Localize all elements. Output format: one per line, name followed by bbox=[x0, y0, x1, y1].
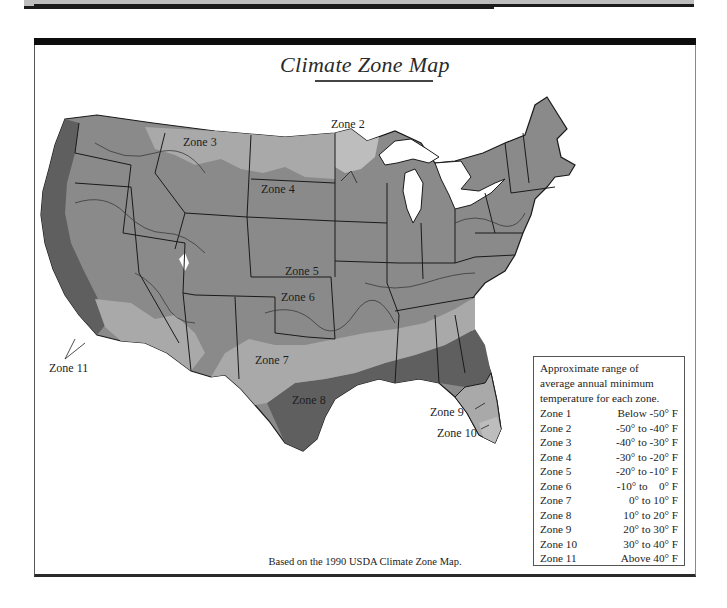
zone-label-11: Zone 11 bbox=[49, 361, 88, 376]
legend-zone: Zone 6 bbox=[540, 479, 571, 494]
zone-label-2: Zone 2 bbox=[331, 117, 365, 132]
map-frame: Climate Zone Map bbox=[34, 38, 696, 577]
legend-row: Zone 4-30° to -20° F bbox=[540, 450, 678, 465]
legend-row: Zone 920° to 30° F bbox=[540, 522, 678, 537]
frame-top-bar bbox=[34, 38, 696, 45]
zone-legend: Approximate range of average annual mini… bbox=[533, 356, 685, 566]
legend-row: Zone 3-40° to -30° F bbox=[540, 435, 678, 450]
zone-label-8: Zone 8 bbox=[292, 393, 326, 408]
legend-header-line-2: average annual minimum bbox=[540, 376, 678, 391]
legend-row: Zone 6-10° to 0° F bbox=[540, 479, 678, 494]
legend-row: Zone 2-50° to -40° F bbox=[540, 421, 678, 436]
zone-label-7: Zone 7 bbox=[255, 353, 289, 368]
legend-zone: Zone 9 bbox=[540, 522, 571, 537]
legend-range: 30° to 40° F bbox=[623, 537, 678, 552]
zone-label-3: Zone 3 bbox=[183, 135, 217, 150]
legend-zone: Zone 5 bbox=[540, 464, 571, 479]
title-underline bbox=[315, 80, 433, 82]
legend-row: Zone 1Below -50° F bbox=[540, 406, 678, 421]
legend-range: -10° to 0° F bbox=[617, 479, 678, 494]
legend-zone: Zone 8 bbox=[540, 508, 571, 523]
page-title: Climate Zone Map bbox=[35, 52, 695, 78]
top-strip bbox=[34, 0, 694, 7]
legend-row: Zone 5-20° to -10° F bbox=[540, 464, 678, 479]
legend-row: Zone 70° to 10° F bbox=[540, 493, 678, 508]
legend-range: -40° to -30° F bbox=[616, 435, 678, 450]
legend-row: Zone 1030° to 40° F bbox=[540, 537, 678, 552]
zone-label-10: Zone 10 bbox=[437, 426, 477, 441]
legend-zone: Zone 1 bbox=[540, 406, 571, 421]
legend-zone: Zone 4 bbox=[540, 450, 571, 465]
zone-label-6: Zone 6 bbox=[281, 290, 315, 305]
zone-label-9: Zone 9 bbox=[430, 405, 464, 420]
legend-zone: Zone 10 bbox=[540, 537, 577, 552]
legend-header-line-1: Approximate range of bbox=[540, 361, 678, 376]
legend-range: 10° to 20° F bbox=[623, 508, 678, 523]
legend-range: Below -50° F bbox=[618, 406, 678, 421]
legend-range: -50° to -40° F bbox=[616, 421, 678, 436]
zone-label-4: Zone 4 bbox=[261, 182, 295, 197]
legend-range: -30° to -20° F bbox=[616, 450, 678, 465]
legend-range: -20° to -10° F bbox=[616, 464, 678, 479]
legend-zone: Zone 2 bbox=[540, 421, 571, 436]
legend-row: Zone 810° to 20° F bbox=[540, 508, 678, 523]
legend-header-line-3: temperature for each zone. bbox=[540, 391, 678, 406]
legend-range: 20° to 30° F bbox=[623, 522, 678, 537]
source-footnote: Based on the 1990 USDA Climate Zone Map. bbox=[35, 556, 695, 567]
zone-11-leader bbox=[65, 339, 85, 359]
zone-label-5: Zone 5 bbox=[285, 264, 319, 279]
legend-zone: Zone 7 bbox=[540, 493, 571, 508]
legend-range: 0° to 10° F bbox=[629, 493, 678, 508]
legend-zone: Zone 3 bbox=[540, 435, 571, 450]
